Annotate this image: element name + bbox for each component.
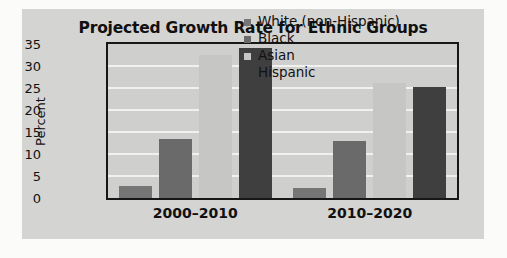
bar: [293, 188, 326, 198]
legend-item-label: Asian: [258, 49, 295, 63]
legend-swatch-icon: [244, 19, 251, 26]
legend-item: Hispanic: [244, 65, 400, 81]
y-axis-tick-label: 0: [11, 192, 41, 205]
y-axis-tick-label: 10: [11, 148, 41, 161]
bar: [199, 55, 232, 198]
y-axis-tick-label: 5: [11, 170, 41, 183]
x-axis-tick-label: 2010–2020: [283, 205, 458, 221]
y-axis-tick-label: 15: [11, 126, 41, 139]
chart-legend: White (non-Hispanic)BlackAsianHispanic: [244, 14, 400, 82]
legend-item-label: Black: [258, 32, 295, 46]
bar: [159, 139, 192, 198]
legend-item: Asian: [244, 48, 400, 64]
bar: [413, 87, 446, 198]
legend-swatch-icon: [244, 70, 251, 77]
legend-swatch-icon: [244, 53, 251, 60]
legend-item-label: Hispanic: [258, 66, 316, 80]
legend-item: White (non-Hispanic): [244, 14, 400, 30]
legend-item: Black: [244, 31, 400, 47]
bar: [373, 83, 406, 198]
legend-item-label: White (non-Hispanic): [258, 15, 400, 29]
y-axis-tick-label: 20: [11, 104, 41, 117]
x-axis-tick-label: 2000–2010: [108, 205, 283, 221]
bar: [333, 141, 366, 198]
y-axis-tick-label: 25: [11, 82, 41, 95]
y-axis-tick-label: 35: [11, 38, 41, 51]
y-axis-tick-label: 30: [11, 60, 41, 73]
bar: [119, 186, 152, 198]
chart-card: Projected Growth Rate for Ethnic Groups …: [22, 9, 484, 239]
legend-swatch-icon: [244, 36, 251, 43]
